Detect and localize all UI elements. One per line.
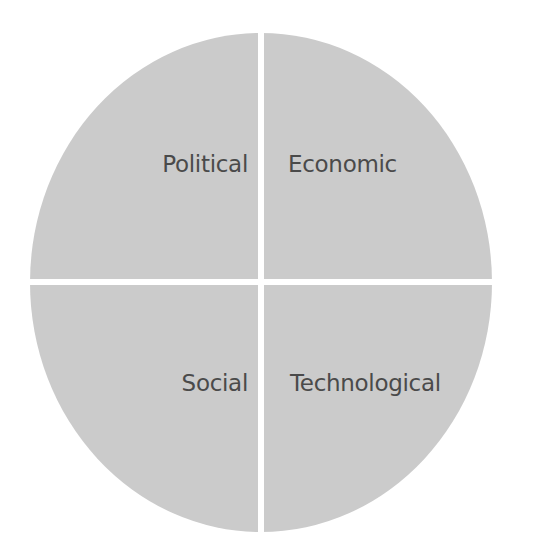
quadrant-political: Political	[30, 33, 258, 279]
quadrant-economic: Economic	[264, 33, 492, 279]
quadrant-technological: Technological	[264, 285, 492, 532]
quadrant-social: Social	[30, 285, 258, 532]
quadrant-label-political: Political	[162, 151, 248, 177]
quadrant-label-social: Social	[182, 370, 248, 396]
quadrant-label-technological: Technological	[290, 370, 441, 396]
pest-circle-diagram: Political Economic Social Technological	[30, 33, 492, 532]
quadrant-label-economic: Economic	[288, 151, 397, 177]
